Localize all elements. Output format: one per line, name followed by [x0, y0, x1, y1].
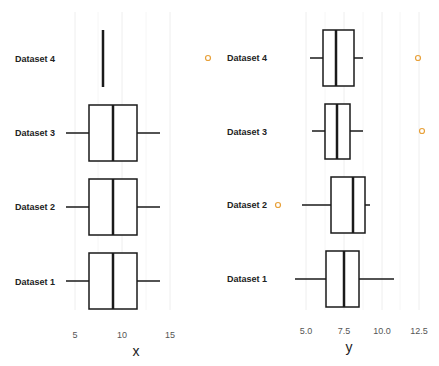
boxplot-figure: Dataset 4 Dataset 3 Dataset 2 Dataset 1	[0, 0, 439, 366]
row-label-dataset-2: Dataset 2	[15, 202, 55, 212]
y-tick-12-5: 12.5	[410, 326, 428, 336]
x-axis-title: x	[133, 343, 140, 359]
row-label-dataset-4: Dataset 4	[227, 53, 267, 63]
row-label-dataset-1: Dataset 1	[15, 277, 55, 287]
box-dataset-4	[103, 30, 211, 87]
outlier-point	[416, 56, 421, 61]
left-panel: Dataset 4 Dataset 3 Dataset 2 Dataset 1	[15, 12, 211, 359]
box-dataset-4	[310, 30, 421, 86]
y-tick-7-5: 7.5	[338, 326, 351, 336]
row-label-dataset-1: Dataset 1	[227, 274, 267, 284]
y-axis-title: y	[346, 339, 353, 355]
row-label-dataset-2: Dataset 2	[227, 200, 267, 210]
y-tick-10: 10.0	[373, 326, 391, 336]
box-dataset-1	[295, 251, 394, 307]
outlier-point	[420, 129, 425, 134]
box-dataset-2	[276, 177, 371, 233]
right-panel: Dataset 4 Dataset 3 Dataset 2 Dataset 1	[227, 12, 428, 355]
x-tick-10: 10	[117, 330, 127, 340]
x-tick-5: 5	[72, 330, 77, 340]
y-tick-5: 5.0	[300, 326, 313, 336]
row-label-dataset-3: Dataset 3	[15, 128, 55, 138]
outlier-point	[206, 56, 211, 61]
row-label-dataset-4: Dataset 4	[15, 54, 55, 64]
outlier-point	[276, 203, 281, 208]
row-label-dataset-3: Dataset 3	[227, 127, 267, 137]
box-dataset-3	[312, 104, 425, 159]
x-tick-15: 15	[165, 330, 175, 340]
